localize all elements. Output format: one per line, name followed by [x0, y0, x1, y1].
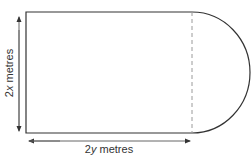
- shape-outline: [26, 12, 250, 133]
- diagram-canvas: 2x metres 2y metres: [0, 0, 252, 158]
- width-label: 2y metres: [85, 143, 134, 155]
- height-label: 2x metres: [3, 48, 15, 97]
- shape-diagram: 2x metres 2y metres: [0, 0, 252, 158]
